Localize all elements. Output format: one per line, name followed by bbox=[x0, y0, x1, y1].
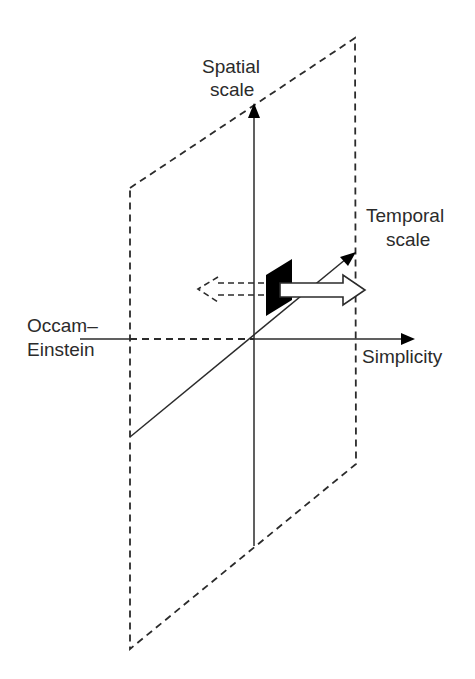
temporal-label-line1: Temporal bbox=[366, 205, 444, 226]
spatial-label-line1: Spatial bbox=[202, 56, 260, 77]
temporal-arrowhead-icon bbox=[340, 252, 356, 266]
spatial-arrowhead-icon bbox=[248, 103, 260, 118]
occam-einstein-label-line2: Einstein bbox=[27, 339, 95, 360]
simplicity-arrowhead-icon bbox=[401, 333, 415, 345]
spatial-label-line2: scale bbox=[210, 79, 254, 100]
temporal-label-line2: scale bbox=[386, 229, 430, 250]
dashed-backward-arrow bbox=[198, 277, 266, 302]
simplicity-label: Simplicity bbox=[362, 346, 443, 367]
occam-einstein-label-line1: Occam– bbox=[27, 315, 98, 336]
diagram-canvas: Spatial scale Temporal scale Simplicity … bbox=[0, 0, 475, 679]
forward-arrow bbox=[280, 275, 365, 305]
